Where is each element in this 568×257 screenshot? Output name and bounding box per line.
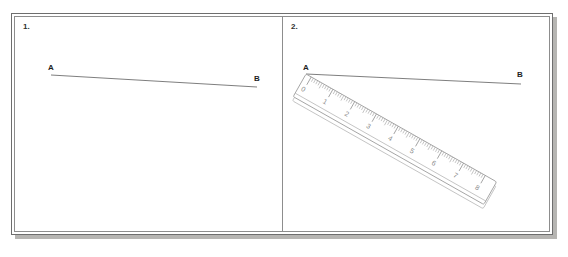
panel-line-only: 1. A B bbox=[15, 17, 283, 231]
segment-ab bbox=[306, 74, 521, 84]
worksheet-frame: 1. A B 2. A B bbox=[11, 13, 553, 235]
panel-line-with-ruler: 2. A B 0 bbox=[283, 17, 550, 231]
segment-ab bbox=[51, 75, 257, 87]
instruction-strip: the ruler bbox=[0, 0, 568, 9]
instruction-text: the ruler bbox=[46, 0, 84, 1]
ruler-face bbox=[293, 74, 496, 204]
panel-1-figure bbox=[15, 17, 283, 232]
panel-2-figure: 0 1 bbox=[283, 17, 550, 232]
measuring-ruler: 0 1 bbox=[291, 74, 498, 209]
ruler-bevel-line bbox=[295, 93, 486, 201]
worksheet-inner: 1. A B 2. A B bbox=[14, 16, 550, 232]
